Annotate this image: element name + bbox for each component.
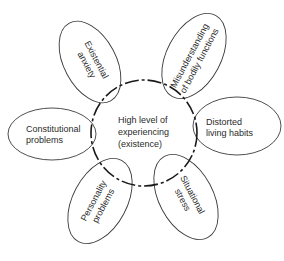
petal-ellipse: [8, 108, 96, 160]
center-label-line: (existence): [118, 139, 162, 149]
petal-label-line: problems: [26, 135, 64, 145]
petal-diagram: Existential anxiety Misunderstanding of …: [0, 0, 284, 261]
center-label-line: High level of: [118, 115, 168, 125]
center-label-line: experiencing: [118, 127, 169, 137]
petal-distorted-living-habits: Distorted living habits: [193, 97, 281, 155]
petal-misunderstanding-bodily-functions: Misunderstanding of bodily functions: [149, 3, 240, 110]
petal-existential-anxiety: Existential anxiety: [46, 11, 133, 113]
petal-label-line: Constitutional: [26, 124, 81, 134]
petal-label-line: living habits: [206, 128, 254, 138]
petal-label-line: Distorted: [206, 117, 242, 127]
petal-constitutional-problems: Constitutional problems: [8, 108, 96, 160]
center-circle: High level of experiencing (existence): [91, 80, 197, 186]
petal-situational-stress: Situational stress: [141, 144, 232, 251]
